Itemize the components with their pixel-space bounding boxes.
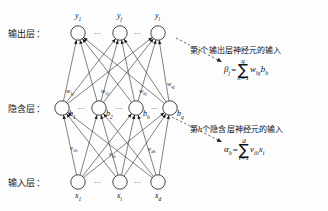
node-label-b1: b1 (69, 109, 76, 120)
ellipsis-output-2: … (134, 28, 142, 36)
node-label-x1: x1 (75, 191, 81, 202)
annot-2-before: 第 (190, 125, 198, 134)
neuron-y1 (71, 26, 85, 40)
annot-1-before: 第 (190, 46, 198, 55)
node-label-y1: y1 (75, 11, 81, 22)
weight-label-vih: vih (109, 150, 115, 159)
neuron-x1 (71, 175, 85, 189)
ellipsis-input-1: … (94, 177, 102, 185)
annot-1-after: 个输出层神经元的输入 (200, 46, 281, 55)
neuron-xi (113, 175, 127, 189)
ellipsis-input-2: … (134, 177, 142, 185)
ellipsis-output-1: … (94, 28, 102, 36)
node-label-b2: b2 (106, 109, 113, 120)
alpha-sum-lower: i=1 (239, 155, 249, 162)
alpha-equals: = (232, 145, 239, 155)
beta-sigma-block: q ∑ h=1 (237, 58, 249, 82)
neuron-xd (151, 175, 165, 189)
weight-label-whj: whj (139, 87, 147, 96)
beta-terms: whjbh (250, 64, 268, 76)
layer-label-output: 输出层： (8, 27, 45, 40)
node-label-yj: yj (117, 11, 122, 22)
node-label-xi: xi (117, 191, 122, 202)
beta-equals: = (230, 65, 237, 75)
alpha-annotation-text: 第h个隐含层神经元的输入 (190, 123, 283, 134)
alpha-terms: vihxi (250, 144, 264, 156)
node-label-bh: bh (143, 109, 150, 120)
beta-formula: βj = q ∑ h=1 whjbh (224, 58, 268, 82)
neuron-yj (113, 26, 127, 40)
annot-2-after: 个隐含层神经元的输入 (202, 125, 283, 134)
ellipsis-hidden-1: … (78, 103, 86, 111)
node-label-xd: xd (155, 191, 161, 202)
node-label-bq: bq (177, 109, 184, 120)
neuron-yl (151, 26, 165, 40)
beta-annotation-text: 第j个输出层神经元的输入 (190, 44, 281, 55)
ellipsis-hidden-3: … (151, 103, 159, 111)
neuron-b1 (55, 101, 69, 115)
neuron-bq (163, 101, 177, 115)
neural-network-diagram: 输出层： 隐含层： 输入层： y1yjylx1xixdb1b2bhbqw1jw2… (0, 0, 328, 211)
layer-label-hidden: 隐含层： (8, 102, 45, 115)
weight-label-vdh: vdh (148, 145, 155, 154)
diagram-canvas (0, 0, 328, 211)
weight-label-wqj: wqj (167, 80, 175, 89)
layer-label-input: 输入层： (8, 176, 45, 189)
beta-sum-lower: h=1 (237, 75, 249, 82)
alpha-lhs: αh (224, 144, 232, 156)
weight-label-w2j: w2j (101, 87, 109, 96)
weight-label-w1j: w1j (66, 87, 74, 96)
weight-label-v1h: v1h (70, 144, 77, 153)
alpha-formula: αh = d ∑ i=1 vihxi (224, 138, 264, 162)
neuron-bh (129, 101, 143, 115)
neuron-b2 (92, 101, 106, 115)
ellipsis-hidden-2: … (115, 103, 123, 111)
node-label-yl: yl (155, 11, 160, 22)
alpha-sigma-block: d ∑ i=1 (239, 138, 249, 162)
